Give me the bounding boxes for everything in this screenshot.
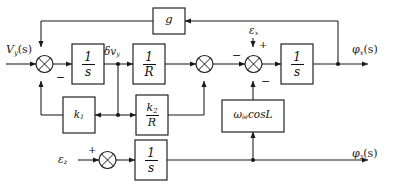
block-label-integrator-2: 1 s [281, 44, 313, 84]
input-label-epsilon-z: εz [58, 154, 67, 166]
input-label-epsilon-x: εx [249, 25, 258, 37]
input-label-velocity: Vy(s) [6, 44, 32, 56]
sign-sum3-bottom-minus: − [261, 76, 270, 87]
sign-sum3-left-minus: − [232, 50, 241, 61]
block-label-gain-inv-R: 1 R [133, 44, 165, 84]
block-label-integrator-1: 1 s [72, 44, 104, 84]
output-label-phi-x: φx(s) [352, 44, 378, 56]
output-label-phi-z: φz(s) [352, 148, 378, 160]
sign-sum4-top-plus: + [88, 145, 96, 155]
node-phi-z-tap [251, 158, 255, 162]
node-delta-v [116, 62, 120, 66]
block-label-gain-k2-over-R: k2 R [136, 95, 168, 135]
sign-sum1-minus: − [56, 72, 65, 83]
block-label-gain-g: g [153, 14, 185, 26]
block-label-gain-k1: k1 [63, 109, 95, 121]
node-k-split [116, 113, 120, 117]
block-label-integrator-3: 1 s [135, 140, 167, 180]
sign-sum3-top-plus: + [259, 40, 267, 50]
block-diagram-canvas: Vy(s) δvy εx εz φx(s) φz(s) 1 s 1 R k1 k… [0, 0, 398, 186]
signal-label-delta-v: δvy [104, 46, 120, 58]
block-label-earth-rate: ωiecosL [222, 109, 284, 121]
node-phi-x-tap [336, 62, 340, 66]
